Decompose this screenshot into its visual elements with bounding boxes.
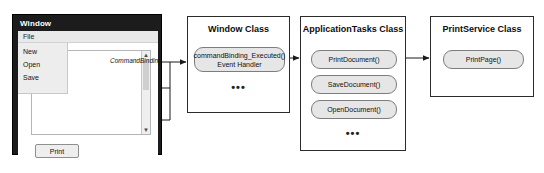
method-save-document[interactable]: SaveDocument() [311, 75, 397, 94]
print-button[interactable]: Print [35, 144, 79, 158]
application-tasks-ellipsis: ••• [301, 127, 405, 139]
command-binding-annotation: CommandBinding [110, 57, 162, 64]
menu-item-new[interactable]: New [23, 48, 37, 55]
method-open-document[interactable]: OpenDocument() [311, 100, 397, 119]
application-tasks-class-title: ApplicationTasks Class [301, 24, 405, 34]
window-titlebar: Window [17, 18, 159, 30]
print-service-class-title: PrintService Class [431, 24, 533, 34]
application-tasks-class-box: ApplicationTasks Class PrintDocument() S… [300, 16, 406, 151]
window-title: Window [20, 19, 51, 28]
window-client-area: File New Open Save ▲ ▼ Print [18, 31, 158, 165]
method-line-1: commandBinding_Executed() [194, 51, 286, 60]
diagram-canvas: Window File New Open Save ▲ ▼ Print Comm… [0, 0, 544, 173]
scrollbar-thumb[interactable] [143, 60, 149, 90]
method-print-document[interactable]: PrintDocument() [311, 50, 397, 69]
method-print-page[interactable]: PrintPage() [443, 50, 524, 69]
window-class-ellipsis: ••• [188, 81, 289, 93]
menu-item-save[interactable]: Save [23, 74, 39, 81]
window-app-mock: Window File New Open Save ▲ ▼ Print [12, 14, 162, 155]
scroll-down-arrow-icon[interactable]: ▼ [142, 126, 150, 134]
window-class-box: Window Class commandBinding_Executed() E… [187, 16, 290, 113]
method-command-binding-executed[interactable]: commandBinding_Executed() Event Handler [194, 47, 285, 72]
file-menu-dropdown: New Open Save [18, 43, 68, 94]
print-service-class-box: PrintService Class PrintPage() [430, 16, 534, 97]
menu-bar-item-file[interactable]: File [23, 33, 34, 40]
window-class-title: Window Class [188, 24, 289, 34]
menu-item-open[interactable]: Open [23, 61, 40, 68]
method-line-2: Event Handler [217, 60, 261, 69]
menu-bar: File [18, 31, 158, 43]
